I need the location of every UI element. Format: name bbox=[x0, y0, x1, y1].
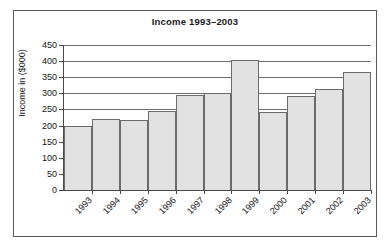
bar bbox=[204, 93, 232, 190]
x-axis-tick-mark bbox=[148, 191, 149, 194]
x-axis-tick-mark bbox=[231, 191, 232, 194]
bar bbox=[315, 89, 343, 190]
y-axis-tick-label: 50 bbox=[15, 170, 57, 179]
y-axis-tick-mark bbox=[59, 61, 63, 62]
y-axis-tick-mark bbox=[59, 142, 63, 143]
plot-area bbox=[64, 45, 371, 190]
x-axis-tick-mark bbox=[120, 191, 121, 194]
bar bbox=[176, 95, 204, 190]
y-axis-tick-label: 300 bbox=[15, 89, 57, 98]
y-axis-tick-label: 150 bbox=[15, 138, 57, 147]
y-axis-tick-mark bbox=[59, 109, 63, 110]
x-axis-tick-mark bbox=[204, 191, 205, 194]
y-axis-tick-mark bbox=[59, 45, 63, 46]
bar bbox=[259, 112, 287, 190]
bar-series bbox=[64, 45, 371, 190]
y-axis-tick-mark bbox=[59, 190, 63, 191]
bar bbox=[231, 60, 259, 190]
chart-figure: Income 1993–2003 Income in ($000) 450400… bbox=[0, 0, 392, 251]
bar bbox=[343, 72, 371, 190]
y-axis-tick-label: 0 bbox=[15, 186, 57, 195]
x-axis-tick-mark bbox=[287, 191, 288, 194]
y-axis-tick-mark bbox=[59, 126, 63, 127]
y-axis-tick-label: 350 bbox=[15, 73, 57, 82]
y-axis-tick-mark bbox=[59, 158, 63, 159]
y-axis-tick-label: 250 bbox=[15, 105, 57, 114]
y-axis-tick-mark bbox=[59, 77, 63, 78]
bar bbox=[287, 96, 315, 190]
y-axis-tick-label: 100 bbox=[15, 154, 57, 163]
x-axis-tick-mark bbox=[176, 191, 177, 194]
x-axis-tick-mark bbox=[259, 191, 260, 194]
bar bbox=[92, 119, 120, 190]
y-axis-tick-label: 200 bbox=[15, 122, 57, 131]
x-axis-tick-mark bbox=[343, 191, 344, 194]
y-axis-tick-label: 400 bbox=[15, 57, 57, 66]
x-axis-tick-mark bbox=[92, 191, 93, 194]
chart-title: Income 1993–2003 bbox=[13, 16, 377, 27]
x-axis-line bbox=[63, 190, 372, 191]
y-axis-tick-mark bbox=[59, 93, 63, 94]
x-axis-tick-mark bbox=[315, 191, 316, 194]
y-axis-tick-mark bbox=[59, 174, 63, 175]
y-axis-tick-label: 450 bbox=[15, 41, 57, 50]
x-axis-tick-mark bbox=[371, 191, 372, 194]
bar bbox=[64, 126, 92, 190]
bar bbox=[148, 111, 176, 190]
bar bbox=[120, 120, 148, 190]
